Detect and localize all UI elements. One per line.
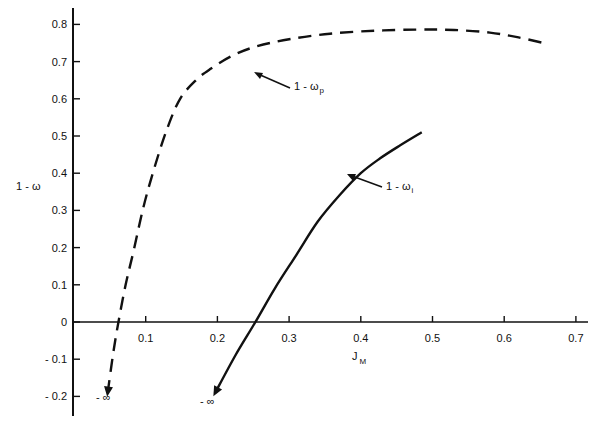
y-tick-label: 0.7	[52, 56, 67, 68]
x-axis-label-sub: M	[360, 357, 367, 366]
annotation-omega-p-label: 1 - ωp	[294, 80, 324, 95]
y-tick-label: 0.2	[52, 242, 67, 254]
x-tick-label: 0.5	[425, 332, 440, 344]
annotation-omega-i-label: 1 - ωi	[386, 180, 413, 195]
annotation-omega-p-main: 1 - ω	[294, 80, 319, 92]
y-tick-label: 0.5	[52, 130, 67, 142]
annotation-omega-i: 1 - ωi	[347, 174, 413, 195]
x-tick-label: 0.6	[497, 332, 512, 344]
annotation-omega-p-sub: p	[319, 86, 324, 95]
x-axis-label: JM	[352, 350, 367, 366]
y-tick-label: - 0.2	[45, 390, 67, 402]
axes	[73, 8, 588, 416]
arrowhead-icon	[254, 72, 263, 79]
annotation-omega-i-arrow-line	[352, 176, 382, 187]
series-omega-i-curve	[215, 132, 421, 392]
tick-marks: 0.80.70.60.50.40.30.20.10- 0.1- 0.20.10.…	[45, 18, 584, 402]
x-tick-label: 0.2	[210, 332, 225, 344]
neg-infinity-label-i: - ∞	[200, 395, 215, 407]
y-tick-label: - 0.1	[45, 353, 67, 365]
y-tick-label: 0.1	[52, 279, 67, 291]
x-tick-label: 0.7	[568, 332, 583, 344]
chart-canvas: 0.80.70.60.50.40.30.20.10- 0.1- 0.20.10.…	[0, 0, 597, 423]
y-tick-label: 0.4	[52, 167, 67, 179]
y-tick-label: 0.6	[52, 93, 67, 105]
annotation-omega-p: 1 - ωp	[254, 72, 324, 95]
y-tick-label: 0	[61, 316, 67, 328]
x-tick-label: 0.4	[353, 332, 368, 344]
x-tick-label: 0.1	[138, 332, 153, 344]
x-tick-label: 0.3	[281, 332, 296, 344]
y-tick-label: 0.8	[52, 18, 67, 30]
series-layer	[104, 30, 544, 397]
neg-infinity-label-p: - ∞	[96, 391, 111, 403]
annotation-omega-i-sub: i	[411, 186, 413, 195]
annotation-omega-p-arrow-line	[258, 74, 290, 88]
y-axis-label: 1 - ω	[16, 180, 41, 192]
y-tick-label: 0.3	[52, 204, 67, 216]
annotation-omega-i-main: 1 - ω	[386, 180, 411, 192]
x-axis-label-main: J	[352, 350, 358, 362]
